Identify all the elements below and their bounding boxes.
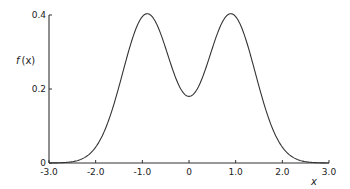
y-axis-title: f(x) (16, 55, 35, 66)
x-tick-label: 2.0 (275, 167, 290, 177)
y-tick-label: 0.2 (32, 84, 46, 94)
x-axis-title: x (310, 176, 317, 187)
x-tick-label: 1.0 (229, 167, 244, 177)
x-tick-label: -1.0 (134, 167, 152, 177)
x-tick-label: -3.0 (40, 167, 58, 177)
y-tick-label: 0.4 (32, 10, 47, 20)
x-tick-label: 3.0 (322, 167, 337, 177)
x-tick-label: 0 (186, 167, 192, 177)
y-tick-label: 0 (40, 158, 46, 168)
x-tick-label: -2.0 (87, 167, 105, 177)
chart: -3.0-2.0-1.001.02.03.000.20.4 f(x) x (0, 0, 350, 189)
density-curve (49, 14, 329, 163)
